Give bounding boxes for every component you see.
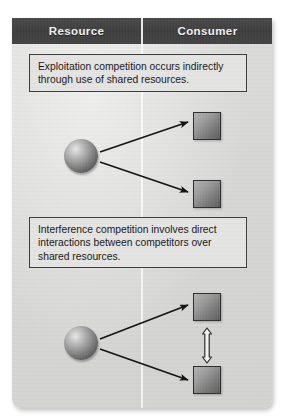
- figure-panel: Resource Consumer Exploitation competiti…: [12, 18, 272, 408]
- diagram-interference-competition: [12, 280, 272, 406]
- caption-line: shared resources.: [38, 250, 239, 263]
- caption-line: through use of shared resources.: [38, 73, 239, 86]
- scanned-page-background: Resource Consumer Exploitation competiti…: [0, 0, 287, 420]
- column-header-resource: Resource: [12, 18, 141, 44]
- interaction-double-arrow-icon: [203, 328, 212, 363]
- column-header-consumer-label: Consumer: [177, 25, 237, 37]
- arrow-layer-interference: [12, 280, 272, 406]
- arrow-resource-to-consumer-bottom: [100, 162, 188, 192]
- caption-line: Interference competition involves direct: [38, 223, 239, 236]
- caption-exploitation-competition: Exploitation competition occurs indirect…: [29, 54, 247, 92]
- caption-interference-competition: Interference competition involves direct…: [29, 217, 247, 268]
- column-header-resource-label: Resource: [49, 25, 105, 37]
- column-header-consumer: Consumer: [143, 18, 272, 44]
- diagram-exploitation-competition: [12, 100, 272, 212]
- arrow-resource-to-consumer-top: [100, 122, 188, 152]
- caption-line: interactions between competitors over: [38, 236, 239, 249]
- figure-header-bar: Resource Consumer: [12, 18, 272, 44]
- arrow-resource-to-consumer-bottom: [100, 349, 188, 380]
- caption-line: Exploitation competition occurs indirect…: [38, 60, 239, 73]
- arrow-resource-to-consumer-top: [100, 305, 188, 339]
- arrow-layer-exploitation: [12, 100, 272, 212]
